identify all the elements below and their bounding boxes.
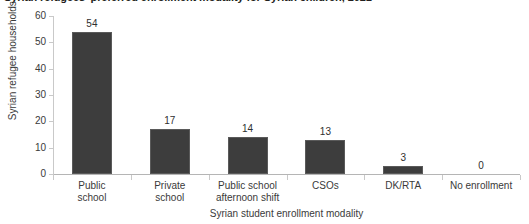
x-category-label-line: No enrollment xyxy=(442,180,520,192)
bar-value-label: 13 xyxy=(300,126,350,137)
x-category-label-line: CSOs xyxy=(287,180,365,192)
y-tick-label: 10 xyxy=(20,142,46,153)
x-category-label-line: school xyxy=(131,192,209,204)
bar[interactable] xyxy=(383,166,423,174)
bar-value-label: 0 xyxy=(456,160,506,171)
y-tick-label: 30 xyxy=(20,89,46,100)
x-category-label-line: Private xyxy=(131,180,209,192)
y-tick-label: 40 xyxy=(20,63,46,74)
x-category-label-line: Public school xyxy=(209,180,287,192)
x-category-label-line: Public xyxy=(53,180,131,192)
bar[interactable] xyxy=(305,140,345,174)
y-axis-title: Syrian refugee households (%) xyxy=(7,0,18,127)
y-tick-label: 60 xyxy=(20,10,46,21)
bar-value-label: 17 xyxy=(145,115,195,126)
x-category-label: Privateschool xyxy=(131,180,209,203)
x-category-label: DK/RTA xyxy=(364,180,442,192)
bar-value-label: 14 xyxy=(223,123,273,134)
x-category-label: Publicschool xyxy=(53,180,131,203)
bar[interactable] xyxy=(228,137,268,174)
bar-value-label: 54 xyxy=(67,18,117,29)
x-category-label-line: school xyxy=(53,192,131,204)
chart-title: Syrian refugees' preferred enrollment mo… xyxy=(4,0,372,3)
x-category-label: CSOs xyxy=(287,180,365,192)
x-category-label-line: afternoon shift xyxy=(209,192,287,204)
x-category-label: Public schoolafternoon shift xyxy=(209,180,287,203)
bar-value-label: 3 xyxy=(378,152,428,163)
x-tick-mark xyxy=(520,175,521,180)
plot-area xyxy=(53,16,520,174)
y-tick-label: 0 xyxy=(20,168,46,179)
x-axis-title: Syrian student enrollment modality xyxy=(53,208,520,219)
bar[interactable] xyxy=(150,129,190,174)
x-category-label-line: DK/RTA xyxy=(364,180,442,192)
bar[interactable] xyxy=(72,32,112,174)
y-tick-label: 20 xyxy=(20,115,46,126)
y-tick-label: 50 xyxy=(20,36,46,47)
x-category-label: No enrollment xyxy=(442,180,520,192)
